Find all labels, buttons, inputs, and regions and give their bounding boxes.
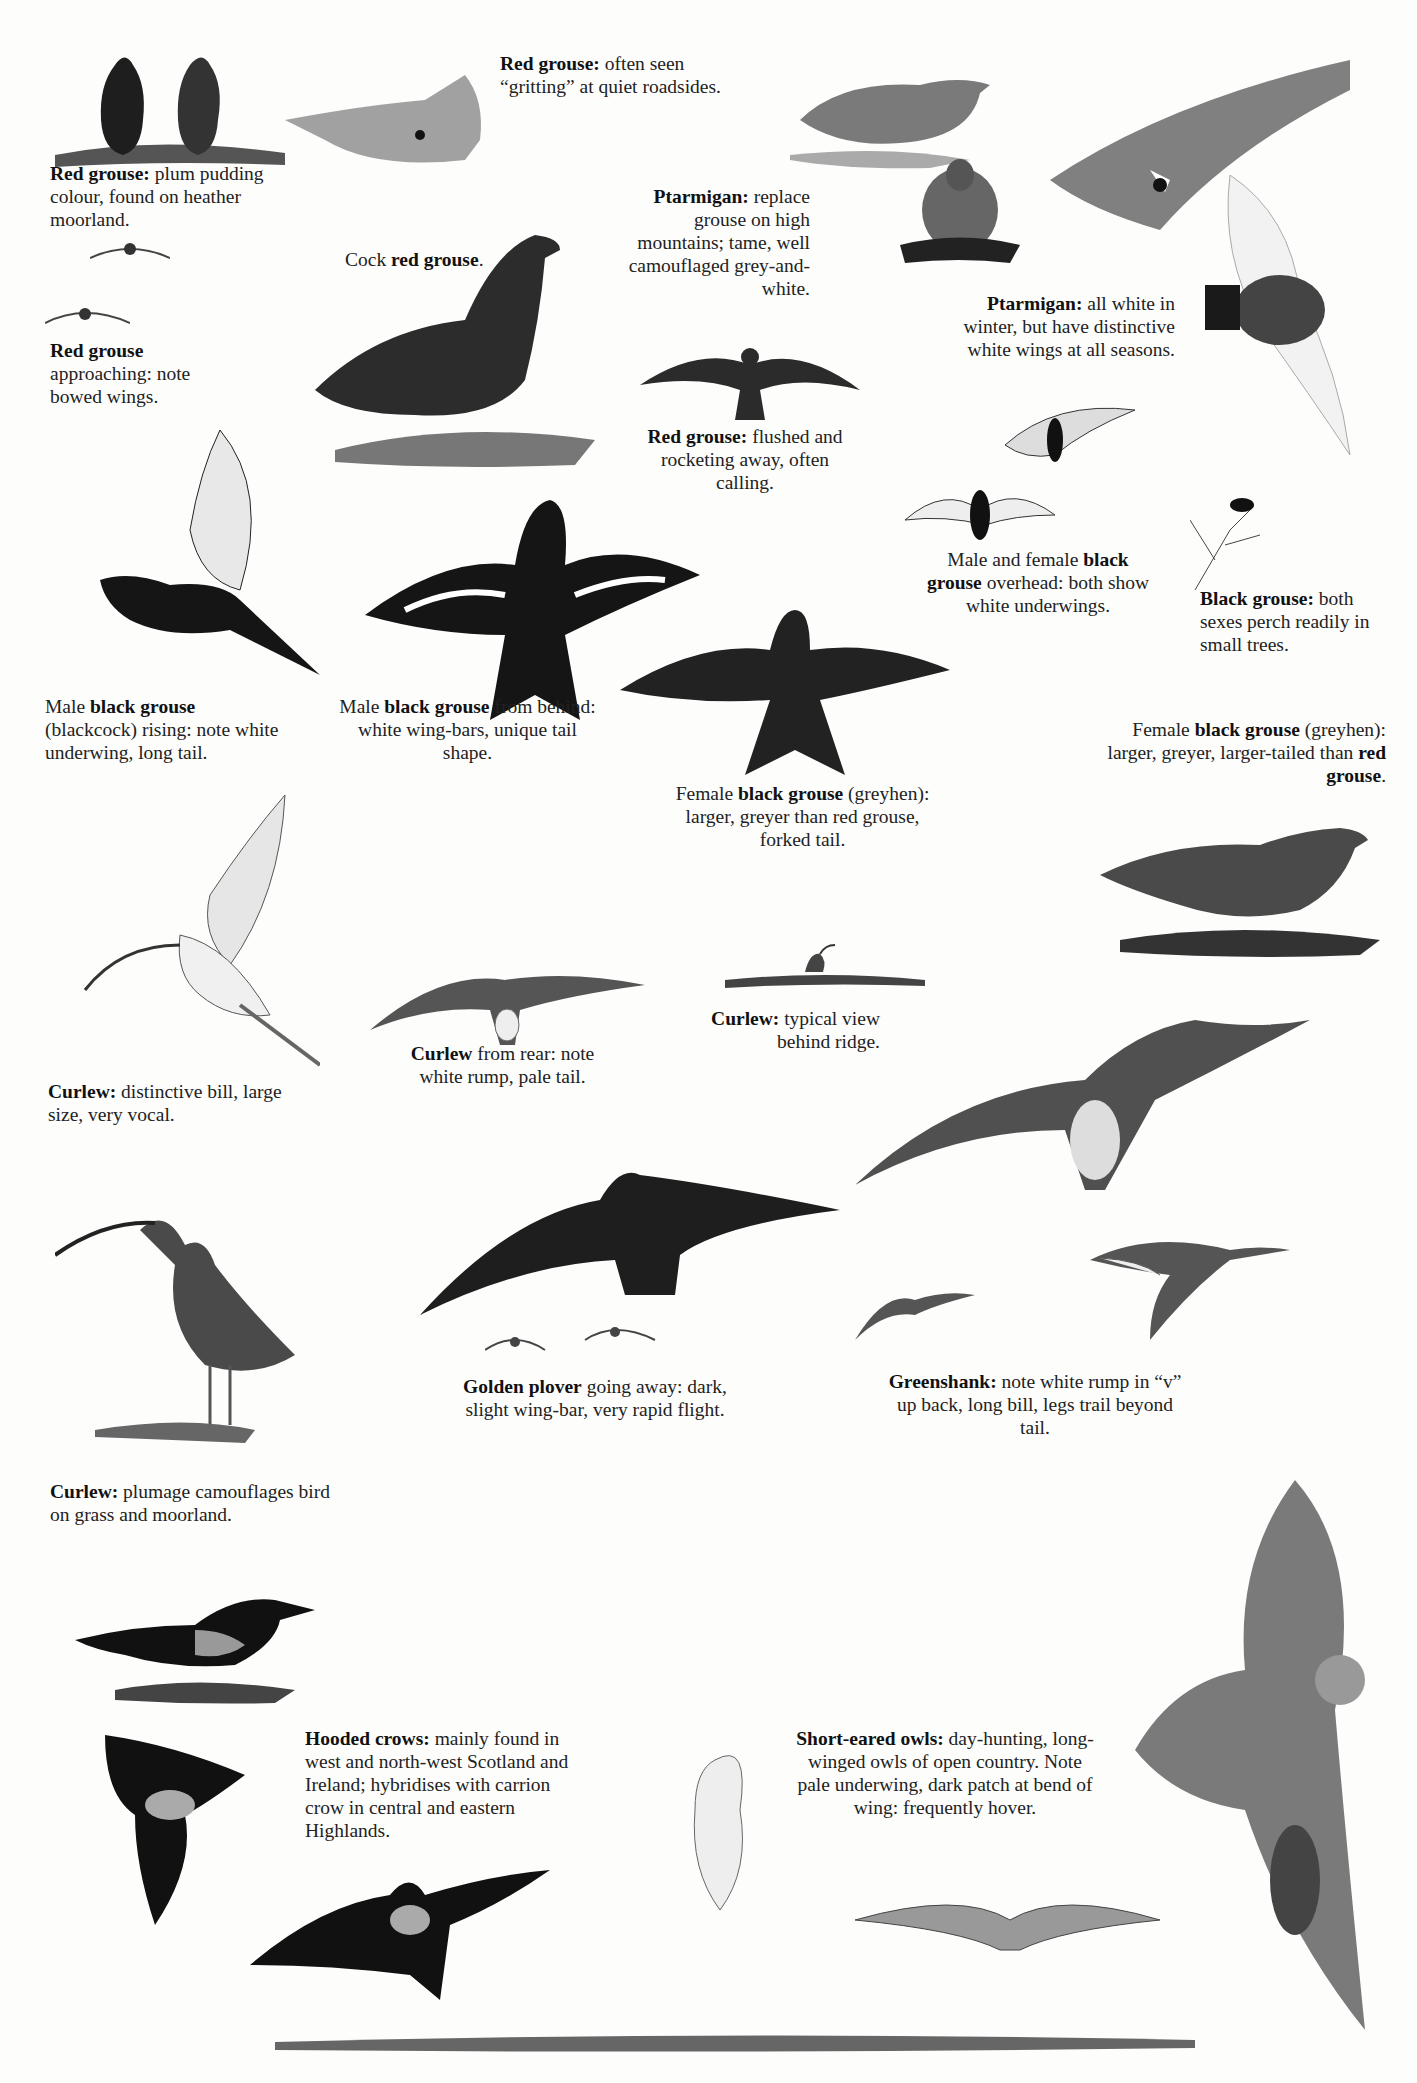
red-grouse-roadside-illustration bbox=[285, 70, 485, 180]
caption-ptarmigan-winter: Ptarmigan: all white in winter, but have… bbox=[930, 292, 1175, 361]
golden-plover-flight-illustration bbox=[420, 1165, 840, 1315]
caption-golden-plover: Golden plover going away: dark, slight w… bbox=[450, 1375, 740, 1421]
female-black-grouse-standing-illustration bbox=[1100, 820, 1380, 960]
caption-bold: Golden plover bbox=[463, 1376, 582, 1397]
caption-text: Male bbox=[45, 696, 90, 717]
caption-text: (blackcock) rising: note white underwing… bbox=[45, 719, 278, 763]
hooded-crow-flight-1-illustration bbox=[95, 1735, 245, 1925]
caption-bold: Red grouse: bbox=[50, 163, 150, 184]
greenshank-small-illustration bbox=[855, 1270, 975, 1340]
caption-bold: Curlew: bbox=[50, 1481, 118, 1502]
hooded-crow-standing-illustration bbox=[75, 1585, 320, 1705]
caption-cock-red-grouse: Cock red grouse. bbox=[345, 248, 545, 271]
curlew-standing-illustration bbox=[55, 1205, 305, 1445]
greenshank-flight-illustration bbox=[1090, 1220, 1290, 1340]
caption-short-eared-owls: Short-eared owls: day-hunting, long-wing… bbox=[795, 1727, 1095, 1819]
caption-ptarmigan-mountains: Ptarmigan: replace grouse on high mounta… bbox=[625, 185, 810, 300]
caption-curlew-bill: Curlew: distinctive bill, large size, ve… bbox=[48, 1080, 308, 1126]
caption-text: Cock bbox=[345, 249, 391, 270]
caption-greenshank: Greenshank: note white rump in “v” up ba… bbox=[880, 1370, 1190, 1439]
caption-curlew-ridge: Curlew: typical view behind ridge. bbox=[700, 1007, 880, 1053]
caption-curlew-plumage: Curlew: plumage camouflages bird on gras… bbox=[50, 1480, 350, 1526]
ground-strip-illustration bbox=[275, 2030, 1195, 2054]
hooded-crow-flight-2-illustration bbox=[250, 1865, 550, 2000]
caption-text: Male bbox=[339, 696, 384, 717]
caption-text: typical view behind ridge. bbox=[777, 1008, 880, 1052]
caption-text: approaching: note bowed wings. bbox=[50, 363, 190, 407]
caption-black-grouse-perch: Black grouse: both sexes perch readily i… bbox=[1200, 587, 1375, 656]
caption-male-black-grouse-rising: Male black grouse (blackcock) rising: no… bbox=[45, 695, 285, 764]
caption-bold: Red grouse: bbox=[500, 53, 600, 74]
caption-text: Male and female bbox=[947, 549, 1083, 570]
caption-bold: black grouse bbox=[1195, 719, 1300, 740]
red-grouse-approaching-illustration bbox=[45, 303, 130, 325]
golden-plover-small-illustration bbox=[485, 1320, 660, 1355]
caption-female-black-grouse-forked: Female black grouse (greyhen): larger, g… bbox=[675, 782, 930, 851]
caption-red-grouse-gritting: Red grouse: often seen “gritting” at qui… bbox=[500, 52, 745, 98]
caption-black-grouse-overhead: Male and female black grouse overhead: b… bbox=[918, 548, 1158, 617]
caption-text: Female bbox=[676, 783, 738, 804]
ptarmigan-winter-flight-illustration bbox=[1200, 175, 1370, 465]
caption-bold: black grouse bbox=[738, 783, 843, 804]
caption-male-black-grouse-behind: Male black grouse from behind: white win… bbox=[335, 695, 600, 764]
caption-bold: Greenshank: bbox=[889, 1371, 997, 1392]
caption-text: . bbox=[479, 249, 484, 270]
caption-red-grouse-plum: Red grouse: plum pudding colour, found o… bbox=[50, 162, 310, 231]
red-grouse-flying-small-illustration bbox=[90, 240, 170, 260]
caption-bold: Ptarmigan: bbox=[987, 293, 1082, 314]
caption-text: Female bbox=[1132, 719, 1194, 740]
female-black-grouse-flight-illustration bbox=[620, 610, 950, 780]
caption-text: overhead: both show white underwings. bbox=[966, 572, 1149, 616]
curlew-large-flight-illustration bbox=[855, 1020, 1310, 1200]
caption-bold: Curlew bbox=[411, 1043, 473, 1064]
caption-red-grouse-flushed: Red grouse: flushed and rocketing away, … bbox=[640, 425, 850, 494]
red-grouse-flushed-illustration bbox=[640, 335, 860, 425]
curlew-behind-ridge-illustration bbox=[725, 940, 925, 990]
black-grouse-overhead-pair-illustration bbox=[905, 400, 1135, 550]
curlew-flight-side-illustration bbox=[80, 795, 320, 1075]
caption-bold: Short-eared owls: bbox=[796, 1728, 944, 1749]
caption-bold: Curlew: bbox=[48, 1081, 116, 1102]
caption-bold: Hooded crows: bbox=[305, 1728, 430, 1749]
caption-curlew-rear: Curlew from rear: note white rump, pale … bbox=[400, 1042, 605, 1088]
caption-bold: black grouse bbox=[90, 696, 195, 717]
caption-bold: Ptarmigan: bbox=[654, 186, 749, 207]
caption-bold: Curlew: bbox=[711, 1008, 779, 1029]
caption-bold: Red grouse bbox=[50, 340, 143, 361]
caption-bold: black grouse bbox=[384, 696, 489, 717]
male-black-grouse-rising-illustration bbox=[90, 430, 320, 700]
ptarmigan-sitting-illustration bbox=[900, 145, 1020, 265]
caption-text: . bbox=[1381, 765, 1386, 786]
red-grouse-pair-illustration bbox=[55, 35, 285, 175]
short-eared-owl-large-illustration bbox=[1135, 1480, 1375, 2040]
caption-red-grouse-approaching: Red grouse approaching: note bowed wings… bbox=[50, 339, 235, 408]
caption-hooded-crows: Hooded crows: mainly found in west and n… bbox=[305, 1727, 575, 1842]
caption-bold: red grouse bbox=[391, 249, 479, 270]
caption-female-black-grouse-larger: Female black grouse (greyhen): larger, g… bbox=[1100, 718, 1386, 787]
caption-bold: Red grouse: bbox=[647, 426, 747, 447]
caption-bold: Black grouse: bbox=[1200, 588, 1314, 609]
field-guide-page: Red grouse: plum pudding colour, found o… bbox=[0, 0, 1417, 2083]
black-grouse-in-tree-illustration bbox=[1190, 490, 1270, 590]
